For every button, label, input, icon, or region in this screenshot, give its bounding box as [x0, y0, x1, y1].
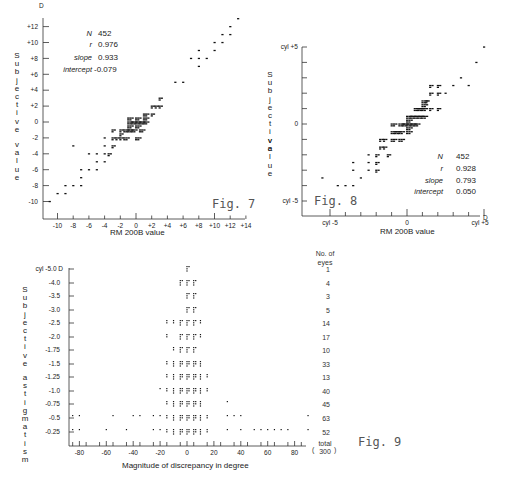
fig7-x-tick-label: +8: [195, 222, 203, 229]
fig9-data-point: [195, 401, 196, 402]
fig9-data-point: [180, 429, 181, 430]
fig7-data-point: [198, 50, 200, 51]
fig9-data-point: [180, 431, 181, 432]
fig8-x-tick-label: 0: [405, 219, 409, 226]
fig7-data-point: [127, 125, 129, 126]
fig8-data-point: [424, 110, 426, 111]
fig7-data-point: [135, 129, 137, 130]
fig8-data-point: [408, 121, 410, 122]
fig8-stat-value-n: 452: [456, 152, 470, 161]
fig7-data-point: [237, 18, 239, 19]
fig7-data-point: [131, 123, 133, 124]
fig7-data-point: [111, 137, 113, 138]
fig7-x-tick-label: +4: [164, 222, 172, 229]
fig8-x-tick-label: cyl -5: [322, 219, 338, 227]
fig7-data-point: [57, 193, 59, 194]
fig9-data-point: [267, 429, 268, 430]
fig9-data-point: [173, 392, 174, 393]
fig9-data-point: [186, 322, 187, 323]
fig9-data-point: [188, 376, 189, 377]
fig8-data-point: [401, 139, 403, 140]
fig8-data-point: [406, 131, 408, 132]
fig7-data-point: [80, 185, 82, 186]
fig9-data-point: [193, 365, 194, 366]
fig8-data-point: [418, 118, 420, 119]
fig8-data-point: [375, 156, 377, 157]
fig9-data-point: [193, 334, 194, 335]
fig8-data-point: [395, 139, 397, 140]
fig9-data-point: [180, 324, 181, 325]
fig9-data-point: [186, 417, 187, 418]
fig8-stat-label-intercept: intercept: [414, 187, 444, 196]
fig8-data-point: [391, 123, 393, 124]
fig9-data-point: [200, 374, 201, 375]
fig8-data-point: [437, 94, 439, 95]
fig7-data-point: [139, 125, 141, 126]
fig9-data-point: [160, 415, 161, 416]
fig8-data-point: [337, 185, 339, 186]
fig9-data-point: [173, 376, 174, 377]
fig9-data-point: [195, 361, 196, 362]
fig9-data-point: [106, 429, 107, 430]
fig9-eye-count: 13: [322, 374, 330, 381]
fig7-data-point: [137, 139, 139, 140]
fig7-data-point: [153, 113, 155, 114]
fig9-data-point: [186, 365, 187, 366]
fig9-data-point: [182, 401, 183, 402]
fig9-data-point: [166, 429, 167, 430]
fig7-data-point: [111, 139, 113, 140]
fig8-data-point: [437, 110, 439, 111]
fig9-data-point: [195, 376, 196, 377]
fig7-data-point: [114, 129, 116, 130]
fig9-data-point: [166, 363, 167, 364]
fig9-data-point: [180, 378, 181, 379]
fig9-data-point: [182, 390, 183, 391]
fig7-stat-label-slope: slope: [74, 53, 92, 62]
fig7-data-point: [143, 117, 145, 118]
fig7-data-point: [135, 125, 137, 126]
fig9-data-point: [166, 374, 167, 375]
fig9-data-point: [173, 429, 174, 430]
fig7-data-point: [182, 82, 184, 83]
fig7-data-point: [110, 153, 112, 154]
fig7-data-point: [133, 131, 135, 132]
fig8-data-point: [391, 133, 393, 134]
fig9-data-point: [186, 347, 187, 348]
fig9-total-bracket-left: (: [312, 446, 315, 454]
fig9-data-point: [166, 361, 167, 362]
fig9-data-point: [186, 390, 187, 391]
fig8-data-point: [414, 108, 416, 109]
fig9-data-point: [180, 433, 181, 434]
fig8-data-point: [393, 139, 395, 140]
fig8-data-point: [368, 162, 370, 163]
fig7-scatter-plot: +12+10+8+6+4+20-2-4-6-8-10-10-8-6-4-20+2…: [14, 2, 255, 237]
fig9-eye-count: 4: [326, 280, 330, 287]
fig9-data-point: [173, 349, 174, 350]
fig9-data-point: [166, 431, 167, 432]
fig8-data-point: [421, 118, 423, 119]
fig9-data-point: [195, 307, 196, 308]
fig7-data-point: [135, 137, 137, 138]
fig9-x-tick-label: 40: [237, 449, 245, 456]
fig9-eye-count: 40: [322, 388, 330, 395]
fig9-data-point: [188, 293, 189, 294]
fig9-data-point: [188, 266, 189, 267]
fig9-x-axis-label: Magnitude of discrepancy in degree: [122, 461, 249, 470]
fig9-data-point: [72, 429, 73, 430]
fig9-figure-label: Fig. 9: [358, 435, 401, 449]
fig8-data-point: [375, 171, 377, 172]
fig8-data-point: [387, 154, 389, 155]
fig7-x-tick-label: -8: [70, 222, 76, 229]
fig7-data-point: [135, 117, 137, 118]
fig9-data-point: [193, 376, 194, 377]
fig9-data-point: [126, 429, 127, 430]
fig7-data-point: [139, 131, 141, 132]
fig8-data-point: [389, 154, 391, 155]
fig8-data-point: [429, 108, 431, 109]
fig9-data-point: [188, 363, 189, 364]
fig9-eye-count: 3: [326, 293, 330, 300]
fig7-data-point: [111, 129, 113, 130]
fig8-data-point: [398, 133, 400, 134]
fig8-data-point: [437, 108, 439, 109]
fig9-data-point: [180, 351, 181, 352]
